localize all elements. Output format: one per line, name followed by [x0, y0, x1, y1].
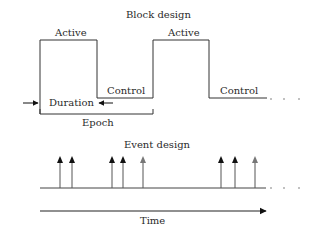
event-markers	[57, 156, 258, 188]
active-label-1: Active	[55, 27, 87, 39]
event-arrow	[69, 156, 75, 188]
event-arrow	[57, 156, 63, 188]
event-arrow	[140, 156, 146, 188]
control-label-2: Control	[220, 85, 258, 97]
time-axis-label: Time	[140, 215, 165, 227]
duration-label: Duration	[49, 97, 94, 109]
control-label-1: Control	[107, 85, 145, 97]
block-design-title: Block design	[126, 9, 191, 21]
event-arrow	[232, 156, 238, 188]
event-continuation-dots	[270, 187, 299, 188]
event-arrow	[218, 156, 224, 188]
fmri-design-diagram: Block design Active Active Control Contr…	[0, 0, 313, 238]
event-arrow	[120, 156, 126, 188]
active-label-2: Active	[168, 27, 200, 39]
event-design-title: Event design	[124, 139, 190, 151]
epoch-label: Epoch	[82, 117, 114, 129]
block-continuation-dots	[270, 98, 299, 99]
diagram-canvas	[0, 0, 313, 238]
epoch-bracket	[40, 109, 153, 114]
event-arrow	[252, 156, 258, 188]
event-arrow	[109, 156, 115, 188]
